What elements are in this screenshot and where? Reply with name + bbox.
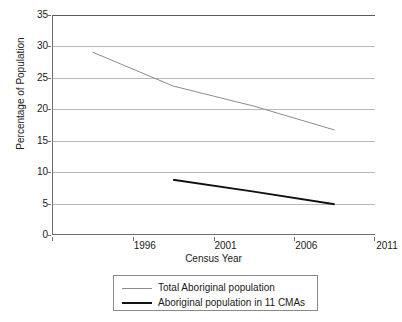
y-tick-label: 0 — [4, 230, 48, 240]
y-tick-label: 15 — [4, 136, 48, 146]
x-tick-label: 1996 — [105, 240, 185, 252]
y-tick-mark — [47, 172, 51, 173]
x-axis-title: Census Year — [52, 253, 375, 265]
legend-swatch-icon — [122, 288, 152, 289]
legend-item-total-aboriginal-population: Total Aboriginal population — [122, 281, 309, 295]
y-tick-label: 10 — [4, 167, 48, 177]
y-tick-label: 20 — [4, 104, 48, 114]
legend-item-label: Total Aboriginal population — [158, 282, 275, 294]
legend-item-label: Aboriginal population in 11 CMAs — [158, 297, 305, 309]
y-tick-label: 30 — [4, 41, 48, 51]
series-line-total-aboriginal-population — [92, 52, 334, 130]
x-tick-label: 2006 — [266, 240, 346, 252]
series-layer — [52, 15, 375, 235]
y-tick-mark — [47, 15, 51, 16]
legend-swatch-icon — [122, 302, 152, 304]
x-tick-label: 2001 — [186, 240, 266, 252]
y-tick-label: 35 — [4, 10, 48, 20]
legend-item-aboriginal-population-11-cmas: Aboriginal population in 11 CMAs — [122, 296, 309, 310]
x-tick-mark — [52, 237, 53, 241]
x-tick-label: 2011 — [347, 240, 402, 252]
chart-legend: Total Aboriginal population Aboriginal p… — [113, 275, 318, 311]
y-tick-mark — [47, 235, 51, 236]
y-tick-mark — [47, 141, 51, 142]
y-tick-label: 5 — [4, 199, 48, 209]
y-tick-mark — [47, 46, 51, 47]
y-tick-label: 25 — [4, 73, 48, 83]
y-tick-mark — [47, 109, 51, 110]
series-line-aboriginal-population-11-cmas — [173, 180, 335, 205]
y-tick-mark — [47, 204, 51, 205]
y-tick-mark — [47, 78, 51, 79]
y-axis-title: Percentage of Population — [15, 14, 26, 174]
